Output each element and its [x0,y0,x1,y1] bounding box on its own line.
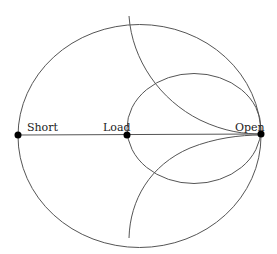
load-label: Load [103,121,131,134]
open-label: Open [235,121,265,134]
short-point [15,132,22,139]
real-axis [18,134,261,135]
short-label: Short [27,121,59,134]
lower-reactance-arc [129,135,261,238]
smith-chart: Short Load Open [0,0,277,254]
